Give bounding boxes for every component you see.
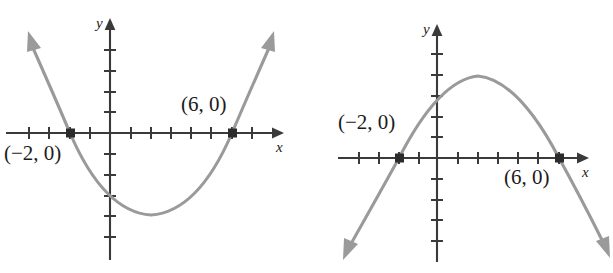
- point-label-root-negative-two: (−2, 0): [4, 143, 61, 164]
- panel-downward-parabola: (−2, 0) (6, 0) x y: [306, 0, 613, 273]
- point-label-root-negative-two: (−2, 0): [338, 112, 395, 133]
- x-axis: [6, 128, 284, 139]
- y-axis-label: y: [423, 22, 430, 37]
- parabola-curve: [27, 31, 275, 215]
- y-axis: [105, 18, 116, 260]
- x-axis: [338, 153, 589, 164]
- x-axis-label: x: [276, 140, 283, 155]
- upward-parabola-plot: [0, 0, 307, 273]
- figure-root: (−2, 0) (6, 0) x y: [0, 0, 613, 273]
- panel-upward-parabola: (−2, 0) (6, 0) x y: [0, 0, 307, 273]
- y-axis: [432, 24, 443, 262]
- point-label-root-six: (6, 0): [181, 94, 227, 115]
- downward-parabola-plot: [306, 0, 613, 273]
- parabola-curve: [343, 76, 610, 260]
- y-axis-label: y: [96, 16, 103, 31]
- point-label-root-six: (6, 0): [504, 167, 550, 188]
- x-axis-label: x: [582, 165, 589, 180]
